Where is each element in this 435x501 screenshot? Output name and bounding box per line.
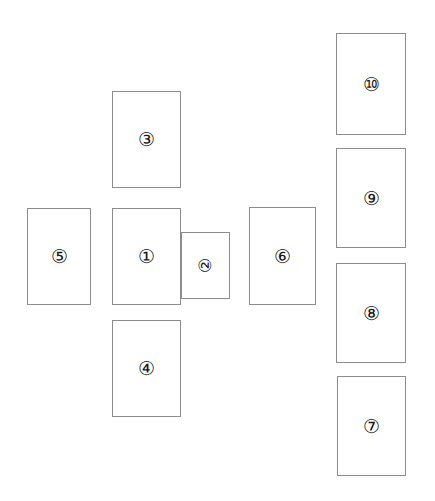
card-3[interactable]: ③ [112, 91, 181, 188]
diagram-canvas: ①②③④⑤⑥⑦⑧⑨⑩ [0, 0, 435, 501]
card-5-label: ⑤ [51, 247, 68, 266]
card-4-label: ④ [138, 359, 155, 378]
card-2[interactable]: ② [181, 232, 230, 299]
card-8-label: ⑧ [363, 304, 380, 323]
card-6-label: ⑥ [274, 247, 291, 266]
card-8[interactable]: ⑧ [336, 263, 406, 363]
card-6[interactable]: ⑥ [249, 207, 316, 305]
card-3-label: ③ [138, 130, 155, 149]
card-4[interactable]: ④ [112, 320, 181, 417]
card-5[interactable]: ⑤ [27, 208, 91, 305]
card-7-label: ⑦ [363, 417, 380, 436]
card-10[interactable]: ⑩ [336, 33, 406, 135]
card-9[interactable]: ⑨ [336, 148, 406, 248]
card-10-label: ⑩ [363, 75, 380, 94]
card-1[interactable]: ① [112, 208, 181, 305]
card-1-label: ① [138, 247, 155, 266]
card-9-label: ⑨ [363, 189, 380, 208]
card-2-label: ② [197, 258, 214, 273]
card-7[interactable]: ⑦ [337, 376, 406, 476]
